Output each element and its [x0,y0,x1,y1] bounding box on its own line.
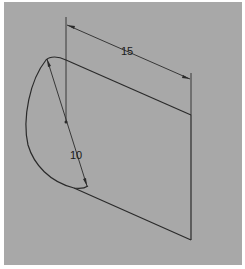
arrowhead-10-end [83,178,87,186]
bottom-edge[interactable] [74,188,191,240]
arrowhead-15-start [67,25,75,29]
sketch-geometry [0,0,245,269]
dimension-label-10[interactable]: 10 [70,150,82,161]
arc-profile[interactable] [26,57,88,188]
dimension-label-15[interactable]: 15 [121,46,133,57]
top-edge[interactable] [66,60,191,115]
arrowhead-10-start [47,59,51,67]
center-point[interactable] [65,121,68,124]
arrowhead-15-end [182,75,190,79]
